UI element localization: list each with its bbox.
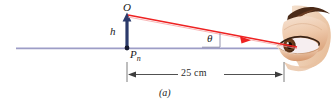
optical-axis-line [16,48,302,49]
object-point-label: O [123,2,131,13]
near-point-letter: P [130,48,137,60]
dimension-arrow-right [275,71,283,77]
eye-illustration [276,6,331,72]
object-height-label: h [110,26,116,37]
angle-theta-label: θ [207,33,212,44]
optics-ray-diagram: O h Pn θ 25 cm (a) [0,0,332,108]
near-point-label: Pn [130,49,141,63]
figure-caption: (a) [159,88,171,98]
distance-label: 25 cm [181,68,207,78]
near-point-subscript: n [137,54,141,63]
dimension-arrow-left [128,71,136,77]
light-ray [128,15,297,49]
object-height-arrow [123,13,132,51]
